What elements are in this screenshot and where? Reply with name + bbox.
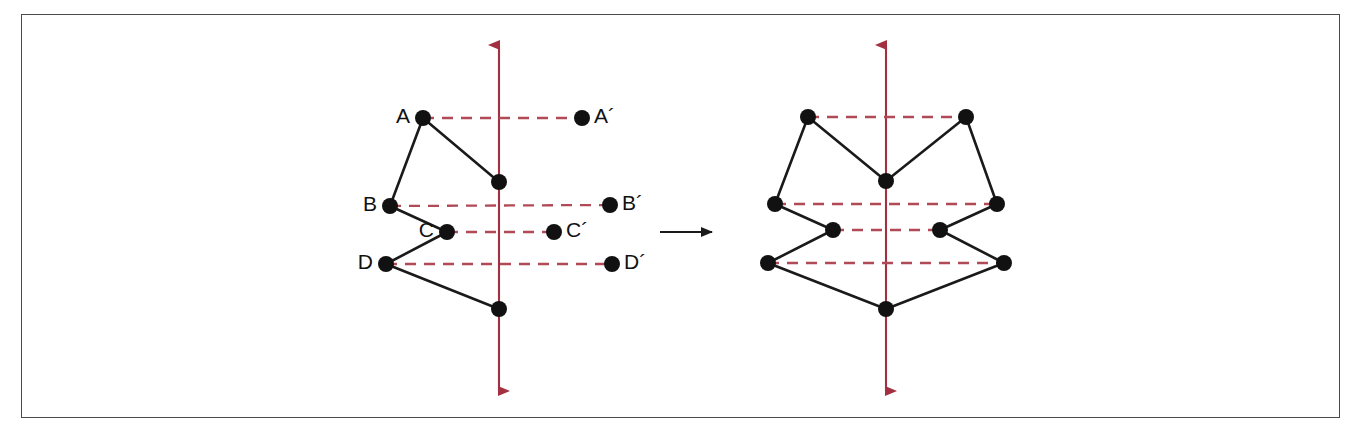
vertex-dot: [491, 301, 507, 317]
vertex-label-C2: C´: [566, 219, 588, 240]
vertex-label-A: A: [396, 105, 410, 126]
vertex-label-C: C: [419, 219, 434, 240]
vertex-label-B2: B´: [622, 192, 643, 213]
vertex-dot: [825, 222, 841, 238]
vertex-dot-A2: [574, 110, 590, 126]
vertex-dot-C: [439, 224, 455, 240]
shape-edge-C-D: [386, 232, 447, 264]
shape-edge-D-V2: [386, 264, 499, 309]
shape-edge-C2-D2: [940, 230, 1004, 263]
vertex-label-A2: A´: [594, 105, 615, 126]
vertex-dot: [760, 255, 776, 271]
vertex-dot: [800, 109, 816, 125]
shape-edges-layer: [386, 117, 1004, 309]
vertex-dot-D: [378, 256, 394, 272]
vertex-label-D2: D´: [624, 251, 646, 272]
vertex-dots-layer: [378, 109, 1012, 317]
vertex-dot-B2: [602, 197, 618, 213]
symmetry-axes-layer: [499, 45, 886, 391]
diagram-page: ABCDA´B´C´D´: [0, 0, 1351, 434]
shape-edge-C-D: [768, 230, 833, 263]
vertex-dot: [996, 255, 1012, 271]
shape-edge-A-B: [775, 117, 808, 204]
vertex-dot-D2: [604, 256, 620, 272]
vertex-dot-A: [415, 110, 431, 126]
vertex-dot: [932, 222, 948, 238]
vertex-dot-C2: [546, 224, 562, 240]
vertex-dot: [878, 301, 894, 317]
shape-edge-V1-A: [423, 118, 499, 182]
vertex-dot: [491, 174, 507, 190]
dashed-connectors-layer: [386, 117, 1004, 264]
shape-edge-B2-C2: [940, 204, 997, 230]
shape-edge-B-C: [775, 204, 833, 230]
shape-edge-A2-B2: [966, 117, 997, 204]
shape-edge-A-B: [390, 118, 423, 206]
shape-edge-D2-V2: [886, 263, 1004, 309]
shape-edge-V1-A2: [886, 117, 966, 181]
vertex-dot: [767, 196, 783, 212]
diagram-canvas: [0, 0, 1351, 434]
vertex-dot: [878, 173, 894, 189]
shape-edge-D-V2: [768, 263, 886, 309]
vertex-dot: [958, 109, 974, 125]
vertex-label-B: B: [363, 193, 377, 214]
vertex-dot: [989, 196, 1005, 212]
vertex-dot-B: [382, 198, 398, 214]
shape-edge-V1-A: [808, 117, 886, 181]
vertex-label-D: D: [358, 251, 373, 272]
